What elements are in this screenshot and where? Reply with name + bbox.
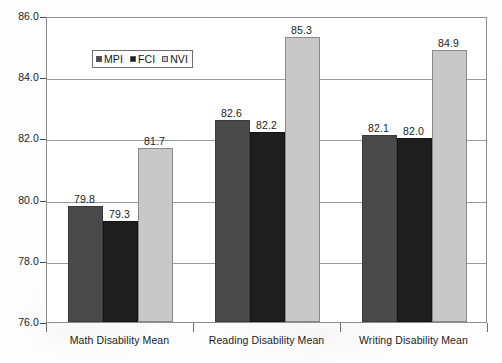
y-axis-tick-label: 76.0	[6, 316, 39, 328]
bar-nvi	[285, 37, 320, 322]
legend-label: MPI	[104, 53, 123, 65]
legend-item-mpi: MPI	[96, 53, 123, 65]
bar-mpi	[68, 206, 103, 322]
x-axis-tick-mark	[193, 323, 194, 332]
legend-item-nvi: NVI	[162, 53, 188, 65]
legend-label: NVI	[170, 53, 188, 65]
legend-swatch-icon	[162, 56, 168, 62]
x-axis-group-label: Math Disability Mean	[46, 334, 193, 346]
bar-value-label: 82.0	[392, 125, 435, 137]
bar-value-label: 79.8	[63, 193, 106, 205]
y-axis-tick-label: 78.0	[6, 255, 39, 267]
bar-value-label: 85.3	[280, 24, 323, 36]
legend-swatch-icon	[130, 56, 136, 62]
x-axis-tick-mark	[340, 323, 341, 332]
legend-item-fci: FCI	[130, 53, 155, 65]
x-axis-tick-mark	[487, 323, 488, 332]
y-axis-tick-label: 84.0	[6, 71, 39, 83]
bar-value-label: 82.2	[245, 119, 288, 131]
chart-legend: MPIFCINVI	[92, 50, 193, 68]
x-axis-group-label: Writing Disability Mean	[340, 334, 487, 346]
bar-value-label: 81.7	[133, 135, 176, 147]
y-axis-tick-label: 80.0	[6, 194, 39, 206]
gridline	[47, 79, 486, 80]
y-axis-tick-label: 82.0	[6, 132, 39, 144]
bar-nvi	[138, 148, 173, 322]
bar-nvi	[432, 50, 467, 322]
bar-mpi	[215, 120, 250, 322]
bar-fci	[397, 138, 432, 322]
chart-page: Standard Score 86.084.082.080.078.076.0 …	[0, 0, 502, 363]
bar-fci	[250, 132, 285, 322]
bar-mpi	[362, 135, 397, 322]
y-axis-tick-label: 86.0	[6, 10, 39, 22]
x-axis-group-label: Reading Disability Mean	[193, 334, 340, 346]
bar-value-label: 79.3	[98, 208, 141, 220]
bar-value-label: 82.6	[210, 107, 253, 119]
x-axis-tick-mark	[46, 323, 47, 332]
legend-swatch-icon	[96, 56, 102, 62]
legend-label: FCI	[138, 53, 155, 65]
bar-value-label: 84.9	[427, 37, 470, 49]
bar-fci	[103, 221, 138, 322]
